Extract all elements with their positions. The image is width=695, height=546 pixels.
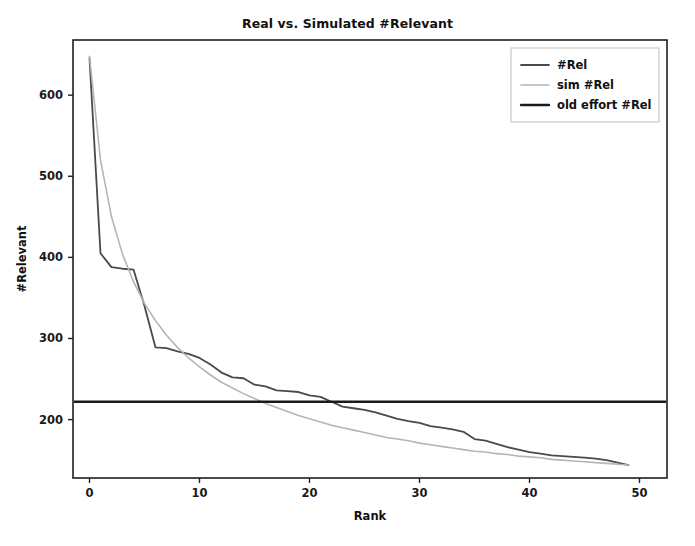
legend-label-sim-rel: sim #Rel [557,78,614,92]
y-axis-ticks: 200300400500600 [39,88,73,426]
x-tick-label: 10 [191,486,207,500]
y-tick-label: 400 [39,250,63,264]
chart-figure: Real vs. Simulated #Relevant 01020304050… [0,0,695,546]
x-axis-ticks: 01020304050 [85,478,647,500]
legend-label--rel: #Rel [557,58,587,72]
chart-legend: #Relsim #Relold effort #Rel [511,48,659,122]
x-tick-label: 50 [631,486,647,500]
y-tick-label: 300 [39,331,63,345]
plot-area: 01020304050 200300400500600 Rank #Releva… [0,0,695,546]
x-tick-label: 20 [301,486,317,500]
y-axis-label: #Relevant [15,225,29,292]
y-tick-label: 500 [39,169,63,183]
y-tick-label: 200 [39,413,63,427]
x-tick-label: 40 [521,486,537,500]
y-tick-label: 600 [39,88,63,102]
legend-label-old-effort-rel: old effort #Rel [557,98,652,112]
x-tick-label: 30 [411,486,427,500]
x-axis-label: Rank [354,509,387,523]
x-tick-label: 0 [85,486,93,500]
